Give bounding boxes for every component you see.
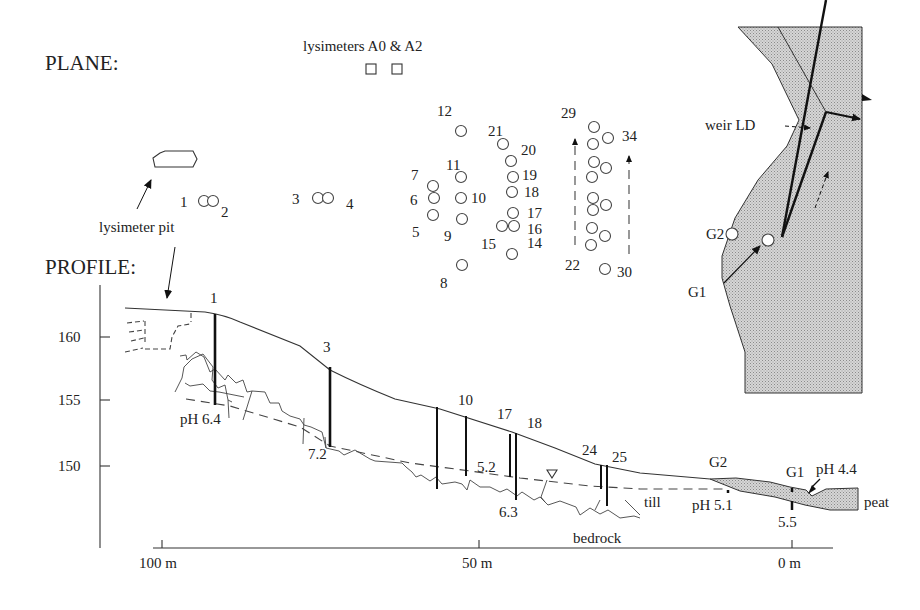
water-table-symbol-icon bbox=[547, 470, 557, 478]
y-tick-label-150: 150 bbox=[58, 458, 81, 474]
well-12-icon bbox=[456, 126, 467, 137]
piezometer-label: 25 bbox=[612, 449, 627, 465]
piezometer-label: G2 bbox=[709, 454, 727, 470]
ph-4-4-arrow-icon bbox=[808, 485, 816, 494]
well-label: 12 bbox=[437, 103, 452, 119]
lysimeter-a2-icon bbox=[392, 64, 402, 74]
well-14-icon bbox=[507, 249, 518, 260]
ph-labels-group: pH 6.47.25.26.3pH 5.15.5pH 4.4 bbox=[180, 411, 857, 530]
ph-value-label: pH 4.4 bbox=[816, 461, 857, 477]
lysimeter-pit-shape bbox=[153, 151, 197, 167]
ph-value-label: pH 5.1 bbox=[692, 497, 733, 513]
gauge-g1-label: G1 bbox=[688, 284, 706, 300]
peat-label: peat bbox=[864, 494, 890, 510]
well-2-icon bbox=[208, 196, 219, 207]
ph-value-label: pH 6.4 bbox=[180, 411, 221, 427]
y-tick-label-160: 160 bbox=[58, 329, 81, 345]
outflow-marker-icon bbox=[862, 94, 872, 101]
weir-label: weir LD bbox=[705, 117, 756, 133]
well-26-icon bbox=[601, 200, 612, 211]
well-16-icon bbox=[509, 221, 520, 232]
well-11-icon bbox=[456, 172, 467, 183]
lysimeters-label: lysimeters A0 & A2 bbox=[303, 38, 423, 54]
x-tick-label-100: 100 m bbox=[139, 555, 177, 571]
plane-heading: PLANE: bbox=[45, 51, 119, 75]
well-label: 11 bbox=[446, 157, 460, 173]
well-label: 18 bbox=[524, 184, 539, 200]
well-3-icon bbox=[313, 193, 324, 204]
well-15-icon bbox=[497, 221, 508, 232]
well-label: 16 bbox=[527, 221, 543, 237]
piezometer-label: 17 bbox=[497, 406, 513, 422]
well-label: 5 bbox=[412, 224, 420, 240]
well-27-icon bbox=[588, 193, 599, 204]
well-label: 30 bbox=[617, 264, 632, 280]
well-label: 14 bbox=[527, 235, 543, 251]
ph-value-label: 5.5 bbox=[778, 514, 797, 530]
y-tick-label-155: 155 bbox=[58, 392, 81, 408]
piezometer-label: 1 bbox=[210, 290, 218, 306]
well-23-icon bbox=[600, 231, 611, 242]
well-34-icon bbox=[589, 122, 600, 133]
well-label: 3 bbox=[292, 191, 300, 207]
well-label: 34 bbox=[622, 128, 638, 144]
lysimeter-pit-profile bbox=[125, 313, 191, 352]
well-20-icon bbox=[506, 156, 517, 167]
well-7-icon bbox=[428, 181, 439, 192]
hydrology-diagram: PLANE: PROFILE: lysimeters A0 & A2 lysim… bbox=[0, 0, 920, 610]
ph-4-4-pointer bbox=[812, 479, 820, 487]
well-label: 19 bbox=[522, 167, 537, 183]
well-32-icon bbox=[588, 139, 599, 150]
well-label: 6 bbox=[410, 192, 418, 208]
till-texture bbox=[541, 480, 640, 515]
well-4-icon bbox=[323, 193, 334, 204]
well-10-icon bbox=[456, 193, 467, 204]
well-label: 1 bbox=[180, 194, 188, 210]
x-tick-label-0: 0 m bbox=[778, 555, 801, 571]
well-21-icon bbox=[498, 139, 509, 150]
profile-heading: PROFILE: bbox=[45, 255, 136, 279]
well-24-icon bbox=[587, 223, 598, 234]
well-label: 7 bbox=[411, 167, 419, 183]
till-label: till bbox=[644, 494, 661, 510]
well-31-icon bbox=[601, 163, 612, 174]
well-label: 21 bbox=[488, 123, 503, 139]
well-labels-group: 123456789101112141516171819202122293034 bbox=[180, 103, 638, 291]
piezometer-label: 10 bbox=[458, 392, 473, 408]
gauge-g2-icon bbox=[726, 228, 738, 240]
well-6-icon bbox=[429, 193, 440, 204]
piezometer-label: 3 bbox=[323, 339, 331, 355]
ph-value-label: 5.2 bbox=[477, 459, 496, 475]
lysimeter-pit-profile-arrow-icon bbox=[167, 247, 175, 298]
gauge-g2-label: G2 bbox=[706, 226, 724, 242]
well-29-icon bbox=[589, 157, 600, 168]
piezometer-label: 18 bbox=[527, 415, 542, 431]
well-25-icon bbox=[588, 205, 599, 216]
piezometer-labels-group: 131017182425G2G1 bbox=[210, 290, 804, 480]
lysimeter-a0-icon bbox=[366, 64, 376, 74]
lysimeter-pit-label: lysimeter pit bbox=[99, 219, 175, 235]
piezometer-label: 24 bbox=[582, 442, 598, 458]
well-28-icon bbox=[587, 172, 598, 183]
gauge-g1-icon bbox=[762, 234, 774, 246]
well-9-icon bbox=[457, 214, 468, 225]
well-label: 22 bbox=[565, 257, 580, 273]
well-label: 9 bbox=[444, 228, 452, 244]
well-label: 10 bbox=[471, 190, 486, 206]
well-8-icon bbox=[457, 260, 468, 271]
bedrock-label: bedrock bbox=[573, 530, 622, 546]
x-tick-label-50: 50 m bbox=[462, 555, 493, 571]
well-label: 4 bbox=[346, 196, 354, 212]
well-18-icon bbox=[507, 187, 518, 198]
well-17-icon bbox=[508, 208, 519, 219]
bedrock-line bbox=[180, 352, 640, 518]
well-22-icon bbox=[586, 240, 597, 251]
well-label: 2 bbox=[221, 204, 229, 220]
ph-value-label: 6.3 bbox=[499, 504, 518, 520]
wells-group bbox=[199, 122, 614, 275]
well-5-icon bbox=[428, 210, 439, 221]
well-30-icon bbox=[600, 264, 611, 275]
well-label: 20 bbox=[521, 142, 536, 158]
ph-value-label: 7.2 bbox=[308, 446, 327, 462]
well-label: 17 bbox=[527, 205, 543, 221]
